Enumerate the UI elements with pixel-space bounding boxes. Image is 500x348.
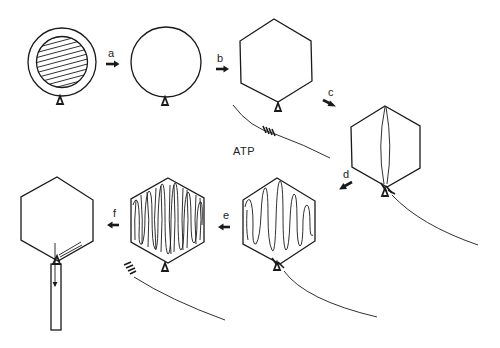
step-arrow-a: a bbox=[106, 47, 120, 68]
dna-entering-capsid bbox=[351, 106, 478, 245]
step-arrow-e: e bbox=[218, 209, 230, 231]
empty-prohead bbox=[131, 27, 201, 105]
portal-vertex-icon bbox=[162, 97, 168, 105]
step-arrow-b: b bbox=[216, 52, 229, 73]
capsid-hexagon bbox=[21, 177, 93, 261]
terminase-complex-icon bbox=[124, 262, 136, 274]
portal-vertex-icon bbox=[275, 103, 281, 111]
capsid-with-tail bbox=[21, 177, 93, 330]
tail-fiber bbox=[60, 245, 82, 257]
expanded-capsid bbox=[240, 19, 312, 111]
step-arrow-d: d bbox=[339, 168, 352, 190]
portal-vertex-icon bbox=[57, 96, 63, 104]
released-terminase-dna bbox=[124, 262, 225, 320]
dna-strand bbox=[134, 277, 225, 320]
tail-fiber bbox=[59, 242, 81, 255]
step-label-b: b bbox=[217, 52, 223, 64]
portal-vertex-icon bbox=[162, 263, 168, 271]
step-label-c: c bbox=[328, 86, 334, 98]
dna-strand bbox=[284, 271, 377, 317]
prohead-with-scaffold bbox=[20, 8, 110, 107]
step-label-f: f bbox=[113, 207, 117, 219]
dna-loop bbox=[381, 107, 385, 184]
dna-strand bbox=[392, 195, 478, 245]
scaffold-core bbox=[37, 37, 88, 88]
prohead-shell bbox=[131, 27, 201, 97]
capsid-hexagon bbox=[243, 178, 315, 264]
capsid-hexagon bbox=[351, 106, 420, 187]
atp-label: ATP bbox=[233, 145, 255, 157]
full-capsid bbox=[131, 178, 204, 271]
terminase-complex-icon bbox=[263, 126, 275, 136]
scaffold-hatching bbox=[20, 8, 110, 107]
dna-loop bbox=[386, 107, 390, 184]
partially-filled-capsid bbox=[243, 178, 377, 317]
phage-tail bbox=[51, 264, 61, 330]
step-label-d: d bbox=[343, 168, 349, 180]
step-arrow-f: f bbox=[107, 207, 119, 229]
packed-dna-coils bbox=[247, 210, 248, 240]
step-label-a: a bbox=[108, 47, 115, 59]
step-arrow-c: c bbox=[323, 86, 336, 107]
packed-dna-coils bbox=[133, 183, 202, 254]
capsid-hexagon bbox=[240, 19, 312, 102]
dna-packaging-diagram: a b ATP c bbox=[0, 0, 500, 348]
step-label-e: e bbox=[223, 209, 229, 221]
